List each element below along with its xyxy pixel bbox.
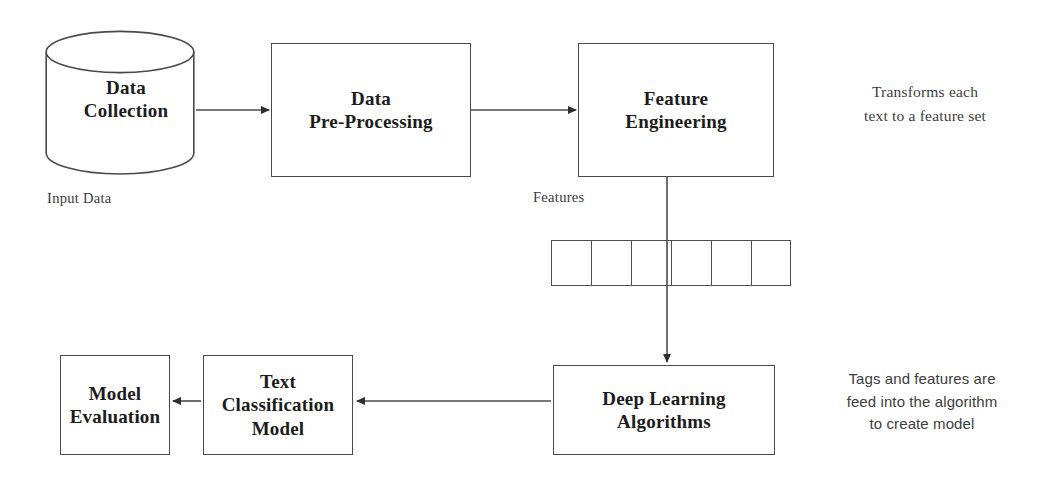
node-deep-learning-algorithms[interactable]: Deep Learning Algorithms [553,365,775,455]
feature-vector-cell [751,240,791,286]
annotation-feature-note: Transforms each text to a feature set [820,80,1030,128]
feature-vector [551,240,791,286]
node-label-deep-learning-algorithms: Deep Learning Algorithms [596,387,731,433]
diagram-canvas: Data Collection Input Data Data Pre-Proc… [0,0,1040,483]
node-label-text-classification-model: Text Classification Model [216,370,341,440]
caption-input-data: Input Data [47,190,112,207]
feature-vector-cell [711,240,751,286]
annotation-algorithm-note: Tags and features are feed into the algo… [808,368,1036,436]
node-label-feature-engineering: Feature Engineering [619,87,732,133]
node-model-evaluation[interactable]: Model Evaluation [60,355,170,455]
node-label-data-preprocessing: Data Pre-Processing [303,87,438,133]
node-data-collection[interactable]: Data Collection [45,30,195,175]
node-label-model-evaluation: Model Evaluation [64,382,167,428]
caption-features: Features [533,189,585,206]
feature-vector-cell [591,240,631,286]
feature-vector-cell [671,240,711,286]
feature-vector-cell [551,240,591,286]
node-text-classification-model[interactable]: Text Classification Model [203,355,353,455]
node-label-data-collection: Data Collection [45,76,207,122]
node-data-preprocessing[interactable]: Data Pre-Processing [271,43,471,177]
feature-vector-cell [631,240,671,286]
node-feature-engineering[interactable]: Feature Engineering [578,43,774,177]
